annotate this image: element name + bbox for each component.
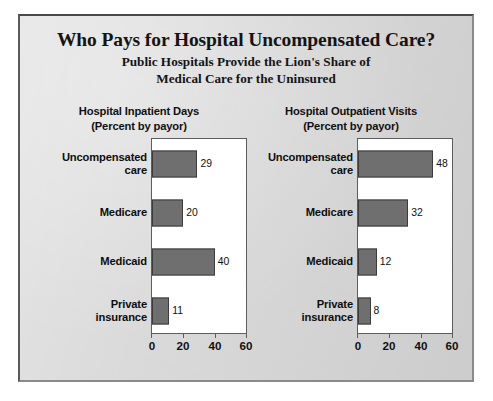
axis-tick-label: 0 <box>149 339 155 352</box>
axis-tick <box>452 334 453 338</box>
category-label-line2: insurance <box>227 311 353 324</box>
category-label-line2: care <box>21 164 147 177</box>
category-label-line1: Medicaid <box>21 255 147 268</box>
axis-tick-label: 40 <box>415 339 428 352</box>
x-axis-inpatient: 0 20 40 60 <box>151 334 247 360</box>
axis-tick-label: 0 <box>355 339 361 352</box>
chart-title-text: Hospital Inpatient Days <box>32 104 246 119</box>
category-label: Medicaid <box>21 255 147 268</box>
axis-tick <box>151 334 152 338</box>
subtitle-line-2: Medical Care for the Uninsured <box>20 71 472 88</box>
bar-value-label: 20 <box>186 207 198 218</box>
chart-panel-inpatient-days: Hospital Inpatient Days (Percent by payo… <box>32 104 246 366</box>
chart-title-text: Hospital Outpatient Visits <box>244 104 458 119</box>
category-label-line1: Uncompensated <box>227 150 353 163</box>
bar-value-label: 11 <box>172 305 183 316</box>
page-title: Who Pays for Hospital Uncompensated Care… <box>20 30 472 50</box>
bar-medicare: 32 <box>358 199 408 226</box>
bar-row: Private insurance 8 <box>358 286 452 335</box>
category-label: Medicare <box>227 206 353 219</box>
bar-value-label: 48 <box>436 158 448 169</box>
axis-tick-label: 60 <box>446 339 459 352</box>
axis-tick <box>357 334 358 338</box>
category-label-line2: insurance <box>21 311 147 324</box>
axis-tick-label: 40 <box>209 339 222 352</box>
category-label: Uncompensated care <box>21 150 147 177</box>
bar-value-label: 29 <box>200 158 212 169</box>
bar-medicaid: 40 <box>152 248 215 275</box>
chart-panel-outpatient-visits: Hospital Outpatient Visits (Percent by p… <box>244 104 458 366</box>
axis-tick <box>389 334 390 338</box>
category-label: Uncompensated care <box>227 150 353 177</box>
chart-title-inpatient: Hospital Inpatient Days (Percent by payo… <box>32 104 246 134</box>
poster-heading-block: Who Pays for Hospital Uncompensated Care… <box>20 30 472 87</box>
x-axis-outpatient: 0 20 40 60 <box>357 334 453 360</box>
category-label: Private insurance <box>227 297 353 324</box>
category-label-line1: Uncompensated <box>21 150 147 163</box>
bar-uncompensated-care: 48 <box>358 150 433 177</box>
bar-value-label: 32 <box>411 207 423 218</box>
category-label: Medicaid <box>227 255 353 268</box>
bar-uncompensated-care: 29 <box>152 150 197 177</box>
axis-tick <box>215 334 216 338</box>
axis-tick <box>421 334 422 338</box>
category-label: Private insurance <box>21 297 147 324</box>
axis-tick <box>183 334 184 338</box>
axis-tick-label: 20 <box>177 339 190 352</box>
bar-row: Medicare 32 <box>358 188 452 237</box>
category-label-line1: Medicare <box>227 206 353 219</box>
category-label-line1: Medicaid <box>227 255 353 268</box>
subtitle-line-1: Public Hospitals Provide the Lion's Shar… <box>20 54 472 71</box>
bar-value-label: 8 <box>374 305 380 316</box>
category-label-line1: Medicare <box>21 206 147 219</box>
bar-medicare: 20 <box>152 199 183 226</box>
category-label-line1: Private <box>227 297 353 310</box>
bar-row: Uncompensated care 48 <box>358 139 452 188</box>
axis-tick-label: 20 <box>383 339 396 352</box>
bar-medicaid: 12 <box>358 248 377 275</box>
poster-card: Who Pays for Hospital Uncompensated Care… <box>18 14 474 382</box>
plot-area-outpatient: Uncompensated care 48 Medicare 32 Medica… <box>357 138 453 334</box>
category-label: Medicare <box>21 206 147 219</box>
category-label-line1: Private <box>21 297 147 310</box>
bar-private-insurance: 8 <box>358 297 371 324</box>
chart-title-outpatient: Hospital Outpatient Visits (Percent by p… <box>244 104 458 134</box>
chart-subtitle-text: (Percent by payor) <box>244 119 458 134</box>
bar-value-label: 12 <box>380 256 392 267</box>
chart-subtitle-text: (Percent by payor) <box>32 119 246 134</box>
bar-row: Medicaid 12 <box>358 237 452 286</box>
category-label-line2: care <box>227 164 353 177</box>
bar-private-insurance: 11 <box>152 297 169 324</box>
